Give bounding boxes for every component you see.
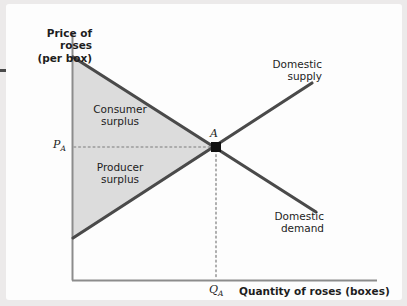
price-subscript: A [60, 144, 65, 153]
quantity-symbol: Q [209, 283, 218, 296]
domestic-demand-label: Domestic demand [249, 210, 324, 235]
x-axis-title: Quantity of roses (boxes) [239, 285, 390, 297]
equilibrium-price-label: PA [53, 139, 66, 154]
equilibrium-point-label: A [210, 128, 218, 141]
equilibrium-quantity-label: QA [209, 284, 223, 299]
consumer-surplus-label: Consumer surplus [78, 103, 162, 128]
y-axis-title: Price of roses (per box) [14, 27, 92, 64]
equilibrium-point-marker [211, 142, 221, 152]
producer-surplus-label: Producer surplus [78, 161, 162, 186]
domestic-supply-label: Domestic supply [249, 58, 322, 83]
quantity-subscript: A [218, 289, 223, 298]
figure-container: Price of roses (per box) Quantity of ros… [0, 0, 407, 306]
